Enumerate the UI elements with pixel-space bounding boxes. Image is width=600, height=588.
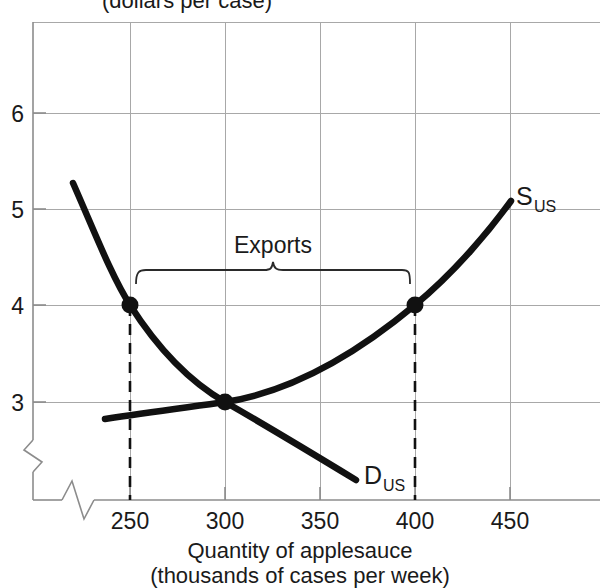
demand-curve-d-us — [73, 183, 356, 480]
x-axis-title-line1: Quantity of applesauce — [187, 538, 412, 563]
marker-dot-400-4 — [407, 297, 424, 314]
exports-brace — [136, 262, 410, 284]
x-tick-labels: 250 300 350 400 450 — [111, 508, 529, 534]
exports-label: Exports — [234, 232, 312, 258]
demand-label-subscript: US — [383, 477, 405, 494]
y-axis-title-line2: (dollars per case) — [102, 0, 272, 13]
x-axis-break-icon — [62, 481, 94, 519]
xtick-label-450: 450 — [491, 508, 529, 534]
demand-curve-label: D US — [364, 461, 405, 494]
ytick-label-5: 5 — [11, 197, 24, 223]
marker-dot-300-3 — [217, 394, 234, 411]
chart-canvas: 6 5 4 3 250 300 350 400 450 — [0, 0, 600, 588]
y-tick-labels: 6 5 4 3 — [11, 101, 24, 416]
supply-label-subscript: US — [534, 198, 556, 215]
demand-label-main: D — [364, 461, 382, 489]
ytick-label-4: 4 — [11, 293, 24, 319]
marker-dot-250-4 — [122, 297, 139, 314]
x-axis-title: Quantity of applesauce (thousands of cas… — [150, 538, 450, 588]
xtick-label-400: 400 — [396, 508, 434, 534]
brace-path — [136, 262, 410, 284]
supply-label-main: S — [516, 182, 533, 210]
xtick-label-350: 350 — [301, 508, 339, 534]
supply-curve-label: S US — [516, 182, 556, 215]
xtick-label-300: 300 — [206, 508, 244, 534]
ytick-label-3: 3 — [11, 390, 24, 416]
x-axis-title-line2: (thousands of cases per week) — [150, 563, 450, 588]
grid-group — [33, 22, 600, 500]
y-axis-break-icon — [24, 440, 42, 472]
supply-demand-chart: 6 5 4 3 250 300 350 400 450 — [0, 0, 600, 588]
xtick-label-250: 250 — [111, 508, 149, 534]
ytick-label-6: 6 — [11, 101, 24, 127]
